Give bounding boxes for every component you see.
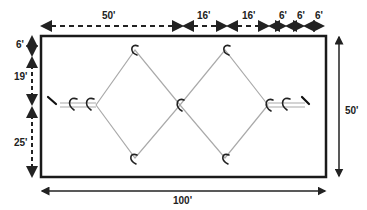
dim-label-top-6b: 6' (297, 11, 305, 21)
dim-label-left-25: 25' (14, 138, 28, 148)
course-diagram (0, 0, 367, 210)
dim-label-top-6c: 6' (315, 11, 323, 21)
dim-label-left-19: 19' (14, 72, 28, 82)
stake-icon (48, 97, 56, 104)
dim-label-top-16a: 16' (197, 11, 211, 21)
dim-label-left-6: 6' (16, 40, 24, 50)
hoop-icon (87, 98, 94, 110)
hoop-icon (283, 98, 290, 110)
hoop-icon (70, 98, 77, 110)
dim-label-top-16b: 16' (242, 11, 256, 21)
dim-label-top-6a: 6' (279, 11, 287, 21)
dim-label-width: 100' (173, 196, 192, 206)
dim-label-height: 50' (345, 106, 359, 116)
wire-course (60, 50, 305, 158)
dim-label-top-50: 50' (102, 11, 116, 21)
hoop-icon (223, 154, 229, 164)
